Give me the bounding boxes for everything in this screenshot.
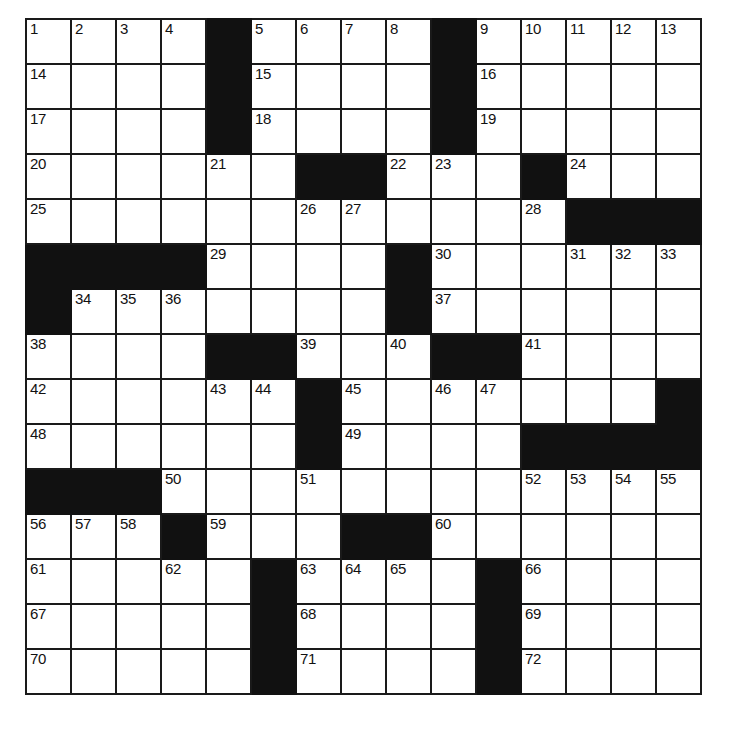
crossword-cell[interactable]: 29: [206, 244, 251, 289]
crossword-cell[interactable]: [251, 244, 296, 289]
crossword-cell[interactable]: [611, 649, 656, 694]
crossword-cell[interactable]: [206, 469, 251, 514]
crossword-cell[interactable]: [476, 154, 521, 199]
crossword-cell[interactable]: 65: [386, 559, 431, 604]
crossword-cell[interactable]: [341, 244, 386, 289]
crossword-cell[interactable]: 62: [161, 559, 206, 604]
crossword-cell[interactable]: 36: [161, 289, 206, 334]
crossword-cell[interactable]: [71, 64, 116, 109]
crossword-cell[interactable]: [341, 334, 386, 379]
crossword-cell[interactable]: [386, 469, 431, 514]
crossword-cell[interactable]: [251, 289, 296, 334]
crossword-cell[interactable]: 67: [26, 604, 71, 649]
crossword-cell[interactable]: [341, 604, 386, 649]
crossword-cell[interactable]: 40: [386, 334, 431, 379]
crossword-cell[interactable]: 28: [521, 199, 566, 244]
crossword-cell[interactable]: 69: [521, 604, 566, 649]
crossword-cell[interactable]: 43: [206, 379, 251, 424]
crossword-cell[interactable]: [161, 379, 206, 424]
crossword-cell[interactable]: [251, 469, 296, 514]
crossword-cell[interactable]: 38: [26, 334, 71, 379]
crossword-cell[interactable]: [476, 469, 521, 514]
crossword-cell[interactable]: [206, 424, 251, 469]
crossword-cell[interactable]: [431, 424, 476, 469]
crossword-cell[interactable]: 3: [116, 19, 161, 64]
crossword-cell[interactable]: 52: [521, 469, 566, 514]
crossword-cell[interactable]: 32: [611, 244, 656, 289]
crossword-cell[interactable]: [566, 109, 611, 154]
crossword-cell[interactable]: 26: [296, 199, 341, 244]
crossword-cell[interactable]: [71, 424, 116, 469]
crossword-cell[interactable]: 10: [521, 19, 566, 64]
crossword-cell[interactable]: [341, 289, 386, 334]
crossword-cell[interactable]: [251, 154, 296, 199]
crossword-cell[interactable]: 9: [476, 19, 521, 64]
crossword-cell[interactable]: 58: [116, 514, 161, 559]
crossword-cell[interactable]: [161, 334, 206, 379]
crossword-cell[interactable]: [566, 514, 611, 559]
crossword-cell[interactable]: [566, 604, 611, 649]
crossword-cell[interactable]: [521, 289, 566, 334]
crossword-cell[interactable]: 13: [656, 19, 701, 64]
crossword-cell[interactable]: [341, 64, 386, 109]
crossword-cell[interactable]: [611, 604, 656, 649]
crossword-cell[interactable]: 2: [71, 19, 116, 64]
crossword-cell[interactable]: [116, 424, 161, 469]
crossword-cell[interactable]: 59: [206, 514, 251, 559]
crossword-cell[interactable]: [116, 109, 161, 154]
crossword-cell[interactable]: 60: [431, 514, 476, 559]
crossword-cell[interactable]: [611, 289, 656, 334]
crossword-cell[interactable]: [521, 514, 566, 559]
crossword-cell[interactable]: [116, 379, 161, 424]
crossword-cell[interactable]: 18: [251, 109, 296, 154]
crossword-cell[interactable]: [431, 649, 476, 694]
crossword-cell[interactable]: 51: [296, 469, 341, 514]
crossword-cell[interactable]: 17: [26, 109, 71, 154]
crossword-cell[interactable]: [656, 649, 701, 694]
crossword-cell[interactable]: 33: [656, 244, 701, 289]
crossword-cell[interactable]: [476, 199, 521, 244]
crossword-cell[interactable]: [386, 199, 431, 244]
crossword-cell[interactable]: [476, 514, 521, 559]
crossword-cell[interactable]: 53: [566, 469, 611, 514]
crossword-cell[interactable]: 37: [431, 289, 476, 334]
crossword-cell[interactable]: [611, 154, 656, 199]
crossword-cell[interactable]: 24: [566, 154, 611, 199]
crossword-cell[interactable]: [116, 649, 161, 694]
crossword-cell[interactable]: [386, 424, 431, 469]
crossword-cell[interactable]: [611, 514, 656, 559]
crossword-cell[interactable]: [161, 424, 206, 469]
crossword-cell[interactable]: [161, 199, 206, 244]
crossword-cell[interactable]: [476, 244, 521, 289]
crossword-cell[interactable]: [251, 514, 296, 559]
crossword-cell[interactable]: 44: [251, 379, 296, 424]
crossword-cell[interactable]: 14: [26, 64, 71, 109]
crossword-cell[interactable]: [341, 469, 386, 514]
crossword-cell[interactable]: 19: [476, 109, 521, 154]
crossword-cell[interactable]: [161, 64, 206, 109]
crossword-cell[interactable]: 54: [611, 469, 656, 514]
crossword-cell[interactable]: [251, 199, 296, 244]
crossword-cell[interactable]: 30: [431, 244, 476, 289]
crossword-cell[interactable]: [71, 199, 116, 244]
crossword-cell[interactable]: [161, 109, 206, 154]
crossword-cell[interactable]: 34: [71, 289, 116, 334]
crossword-cell[interactable]: [206, 649, 251, 694]
crossword-cell[interactable]: 35: [116, 289, 161, 334]
crossword-cell[interactable]: [251, 424, 296, 469]
crossword-cell[interactable]: [206, 289, 251, 334]
crossword-cell[interactable]: 57: [71, 514, 116, 559]
crossword-cell[interactable]: [521, 64, 566, 109]
crossword-cell[interactable]: [566, 289, 611, 334]
crossword-cell[interactable]: [656, 154, 701, 199]
crossword-cell[interactable]: 11: [566, 19, 611, 64]
crossword-cell[interactable]: 22: [386, 154, 431, 199]
crossword-cell[interactable]: [611, 334, 656, 379]
crossword-cell[interactable]: [161, 604, 206, 649]
crossword-cell[interactable]: [71, 334, 116, 379]
crossword-cell[interactable]: 31: [566, 244, 611, 289]
crossword-cell[interactable]: [476, 424, 521, 469]
crossword-cell[interactable]: [161, 649, 206, 694]
crossword-cell[interactable]: [566, 559, 611, 604]
crossword-cell[interactable]: 66: [521, 559, 566, 604]
